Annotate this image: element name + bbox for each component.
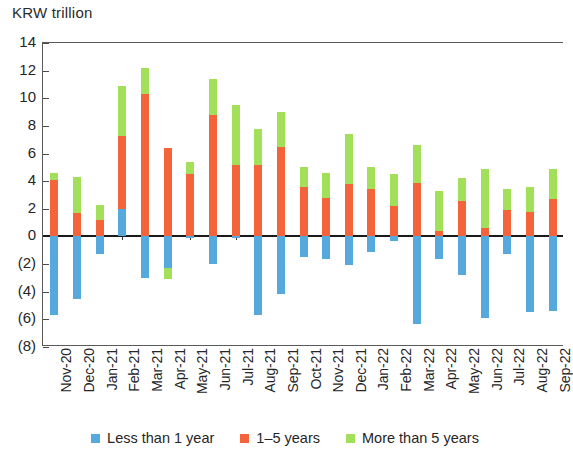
bar-segment-mid — [526, 212, 534, 237]
bar-segment-long — [503, 189, 511, 210]
bar-segment-long — [300, 167, 308, 186]
legend-item[interactable]: 1–5 years — [240, 430, 320, 446]
bar-stack[interactable] — [345, 43, 353, 345]
bar-stack[interactable] — [367, 43, 375, 345]
x-axis-tick-label: Sep-22 — [557, 348, 573, 393]
legend-item[interactable]: More than 5 years — [346, 430, 479, 446]
legend-swatch-icon — [346, 434, 355, 443]
bar-segment-mid — [141, 94, 149, 236]
y-axis-tick-label: 6 — [28, 145, 36, 160]
bar-stack[interactable] — [96, 43, 104, 345]
bar-stack[interactable] — [549, 43, 557, 345]
x-axis-tick-label: Sep-21 — [285, 348, 301, 393]
x-axis-tick-label: Mar-22 — [421, 348, 437, 392]
bar-segment-mid — [50, 180, 58, 237]
bar-segment-mid — [458, 201, 466, 237]
y-axis-tick-mark — [43, 181, 49, 182]
bar-stack[interactable] — [50, 43, 58, 345]
y-axis-tick-mark — [43, 209, 49, 210]
x-axis-tick-label: Dec-21 — [353, 348, 369, 393]
bar-stack[interactable] — [118, 43, 126, 345]
bar-segment-mid — [481, 228, 489, 236]
y-axis-tick-mark — [43, 43, 49, 44]
bar-segment-mid — [300, 187, 308, 237]
plot-area — [42, 42, 563, 346]
legend-swatch-icon — [91, 434, 100, 443]
bar-segment-mid — [73, 213, 81, 236]
y-axis-tick-mark — [43, 264, 49, 265]
bar-segment-long — [50, 173, 58, 180]
bar-segment-short-negative — [481, 236, 489, 318]
y-axis-tick-mark — [43, 98, 49, 99]
bar-stack[interactable] — [435, 43, 443, 345]
x-axis-tick-label: Jan-21 — [104, 348, 120, 390]
bar-segment-long — [526, 187, 534, 212]
bar-stack[interactable] — [141, 43, 149, 345]
x-axis-tick-label: Jun-22 — [489, 348, 505, 390]
bar-segment-long — [367, 167, 375, 189]
y-axis-tick-mark — [43, 319, 49, 320]
y-axis-tick-label: (8) — [18, 338, 36, 353]
bar-stack[interactable] — [481, 43, 489, 345]
bar-stack[interactable] — [458, 43, 466, 345]
x-axis-tick-label: Dec-20 — [81, 348, 97, 393]
bar-segment-long — [277, 112, 285, 147]
bar-segment-short — [118, 209, 126, 237]
y-axis-tick-label: 14 — [19, 34, 36, 49]
bar-stack[interactable] — [186, 43, 194, 345]
y-axis-tick-label: 2 — [28, 200, 36, 215]
bar-segment-short-negative — [526, 236, 534, 312]
x-axis-tick-label: Jul-21 — [240, 348, 256, 386]
bar-stack[interactable] — [413, 43, 421, 345]
bar-segment-short-negative — [186, 236, 194, 237]
bar-stack[interactable] — [73, 43, 81, 345]
y-axis-tick-mark — [43, 126, 49, 127]
bar-stack[interactable] — [322, 43, 330, 345]
x-axis-tick-label: Aug-22 — [534, 348, 550, 393]
bar-stack[interactable] — [300, 43, 308, 345]
bar-segment-long — [549, 169, 557, 199]
bar-stack[interactable] — [209, 43, 217, 345]
bar-stack[interactable] — [503, 43, 511, 345]
bar-segment-mid — [96, 220, 104, 237]
bar-stack[interactable] — [277, 43, 285, 345]
legend-label: 1–5 years — [256, 430, 320, 446]
y-axis-tick-mark — [43, 71, 49, 72]
y-axis-tick-mark — [43, 154, 49, 155]
bar-segment-long — [96, 205, 104, 220]
bar-segment-short-negative — [345, 236, 353, 265]
bar-segment-mid — [322, 198, 330, 237]
legend-label: More than 5 years — [362, 430, 479, 446]
bar-segment-long — [458, 178, 466, 200]
y-axis-tick-label: 0 — [28, 227, 36, 242]
bar-segment-mid — [186, 174, 194, 236]
x-axis-tick-label: Apr-21 — [172, 348, 188, 389]
y-axis-tick-label: (6) — [18, 310, 36, 325]
bar-segment-short-negative — [141, 236, 149, 277]
bar-segment-short-negative — [300, 236, 308, 257]
y-axis-tick-label: 12 — [19, 62, 36, 77]
bar-segment-long — [186, 162, 194, 174]
bar-segment-short-negative — [435, 236, 443, 258]
bar-segment-short-negative — [232, 236, 240, 237]
legend-item[interactable]: Less than 1 year — [91, 430, 214, 446]
bar-stack[interactable] — [390, 43, 398, 345]
x-axis-tick-label: Feb-21 — [126, 348, 142, 392]
bar-stack[interactable] — [232, 43, 240, 345]
x-axis-tick-label: Jul-22 — [511, 348, 527, 386]
x-axis-tick-label: May-22 — [466, 348, 482, 394]
bar-segment-long — [254, 129, 262, 165]
bar-stack[interactable] — [254, 43, 262, 345]
y-axis-tick-label: (2) — [18, 255, 36, 270]
bar-segment-mid — [164, 148, 172, 236]
x-axis-tick-label: Oct-21 — [308, 348, 324, 389]
bar-segment-long — [73, 177, 81, 213]
bar-segment-mid — [254, 165, 262, 237]
bar-segment-short-negative — [549, 236, 557, 311]
bar-stack[interactable] — [164, 43, 172, 345]
bar-segment-long — [413, 145, 421, 182]
x-axis-tick-label: Jun-21 — [217, 348, 233, 390]
bar-segment-mid — [503, 210, 511, 236]
bar-stack[interactable] — [526, 43, 534, 345]
